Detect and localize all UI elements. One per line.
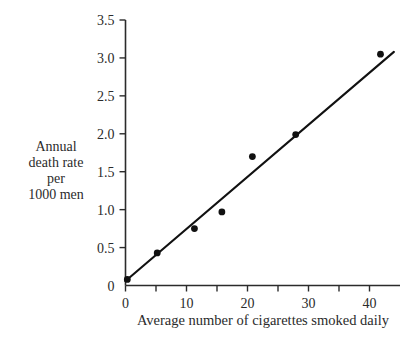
- y-tick-label: 1.5: [97, 165, 115, 180]
- y-tick-label: 2.0: [97, 127, 115, 142]
- x-axis-tick-labels: 010203040: [122, 296, 377, 311]
- data-point: [154, 249, 161, 256]
- y-axis-title-line-1: Annual: [35, 139, 76, 154]
- chart-figure: 00.51.01.52.02.53.03.5 010203040 Average…: [0, 0, 414, 339]
- y-axis-title-line-3: per: [47, 171, 65, 186]
- y-axis-title-line-2: death rate: [29, 155, 84, 170]
- y-tick-label: 1.0: [97, 203, 115, 218]
- y-tick-label: 0.5: [97, 241, 115, 256]
- y-axis-ticks: [120, 20, 126, 248]
- y-tick-label: 2.5: [97, 89, 115, 104]
- x-axis-title: Average number of cigarettes smoked dail…: [137, 312, 390, 328]
- x-axis-major-ticks: [126, 286, 370, 292]
- scatter-plot: 00.51.01.52.02.53.03.5 010203040 Average…: [0, 0, 414, 339]
- data-point: [191, 225, 198, 232]
- x-tick-label: 20: [241, 296, 255, 311]
- x-tick-label: 10: [180, 296, 194, 311]
- data-point: [249, 153, 256, 160]
- y-tick-label: 0: [108, 279, 115, 294]
- x-tick-label: 30: [302, 296, 316, 311]
- x-tick-label: 0: [122, 296, 129, 311]
- x-tick-label: 40: [363, 296, 377, 311]
- y-axis-tick-labels: 00.51.01.52.02.53.03.5: [97, 13, 115, 294]
- data-point: [124, 276, 131, 283]
- data-point: [218, 209, 225, 216]
- x-axis-title-text: Average number of cigarettes smoked dail…: [137, 312, 390, 328]
- y-axis-title: Annual death rate per 1000 men: [28, 139, 84, 202]
- y-tick-label: 3.5: [97, 13, 115, 28]
- regression-line-segment: [126, 52, 394, 281]
- data-point: [377, 51, 384, 58]
- y-tick-label: 3.0: [97, 51, 115, 66]
- regression-line: [126, 52, 394, 281]
- y-axis-title-line-4: 1000 men: [28, 187, 84, 202]
- data-point: [292, 131, 299, 138]
